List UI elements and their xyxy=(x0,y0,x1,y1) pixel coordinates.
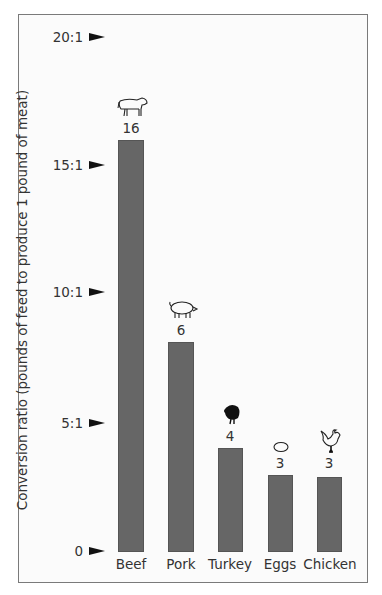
bar-turkey xyxy=(218,448,243,552)
y-tick-15: 15:1 xyxy=(35,157,105,173)
y-axis-label: Conversion ratio (pounds of feed to prod… xyxy=(14,40,34,560)
y-tick-20: 20:1 xyxy=(35,29,105,45)
value-label-eggs: 3 xyxy=(260,455,300,471)
tick-arrow-icon xyxy=(89,419,105,427)
value-label-chicken: 3 xyxy=(309,455,349,471)
cow-icon xyxy=(117,95,149,119)
bar-beef xyxy=(118,140,144,552)
tick-arrow-icon xyxy=(89,161,105,169)
y-tick-10: 10:1 xyxy=(35,284,105,300)
value-label-beef: 16 xyxy=(111,120,151,136)
pig-icon xyxy=(167,298,199,320)
tick-arrow-icon xyxy=(89,288,105,296)
tick-arrow-icon xyxy=(89,547,105,555)
value-label-turkey: 4 xyxy=(210,428,250,444)
y-tick-5: 5:1 xyxy=(35,415,105,431)
y-tick-0: 0 xyxy=(35,543,105,559)
bar-chicken xyxy=(317,477,342,552)
value-label-pork: 6 xyxy=(161,322,201,338)
category-label-chicken: Chicken xyxy=(300,556,360,572)
turkey-icon xyxy=(222,403,242,427)
bar-pork xyxy=(168,342,194,552)
bar-eggs xyxy=(268,475,293,552)
tick-arrow-icon xyxy=(89,33,105,41)
rooster-icon xyxy=(318,428,344,456)
egg-icon xyxy=(272,441,290,453)
